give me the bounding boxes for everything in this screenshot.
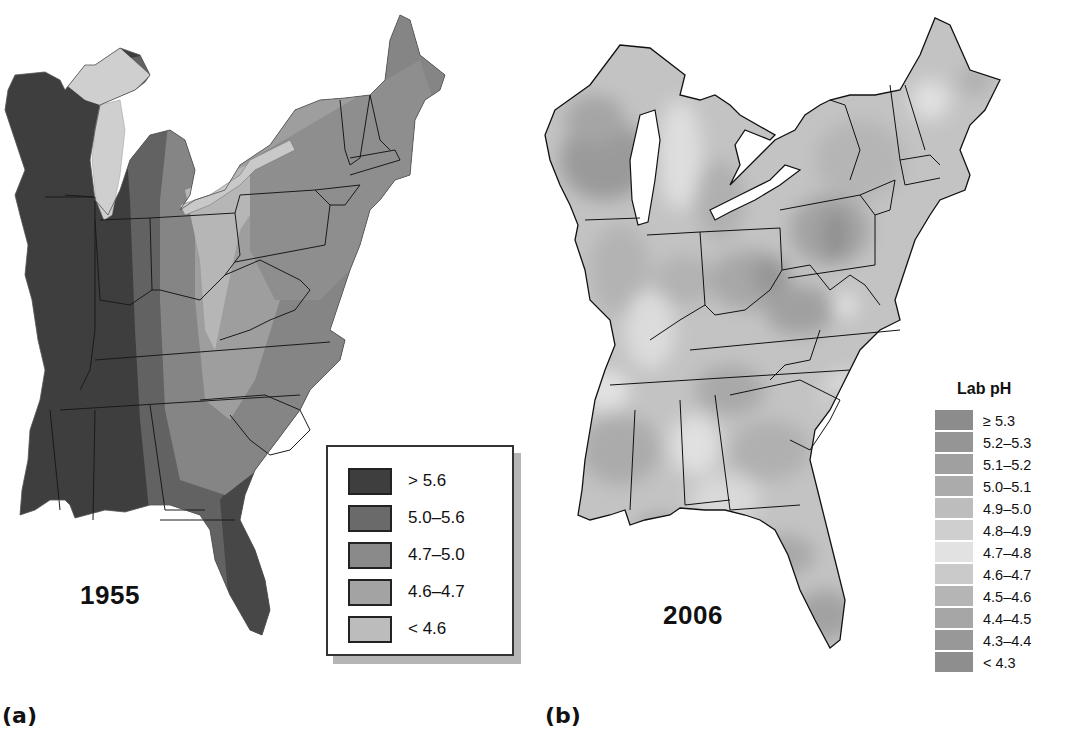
panel-letter-b: (b) (545, 703, 581, 728)
legend-item: 4.6–4.7 (935, 564, 1075, 586)
legend-item: < 4.3 (935, 652, 1075, 674)
legend-label: 4.7–4.8 (983, 545, 1031, 561)
legend-item: 5.0–5.1 (935, 476, 1075, 498)
legend-item: 4.4–4.5 (935, 608, 1075, 630)
legend-swatch (935, 498, 973, 520)
legend-2006: Lab pH ≥ 5.3 5.2–5.3 5.1–5.2 5.0–5.1 4.9… (935, 380, 1075, 674)
legend-label: 4.7–5.0 (408, 545, 465, 565)
legend-label: 4.6–4.7 (983, 567, 1031, 583)
legend-label: 5.0–5.1 (983, 479, 1031, 495)
legend-item: 4.8–4.9 (935, 520, 1075, 542)
legend-swatch (935, 542, 973, 564)
legend-label: 5.0–5.6 (408, 508, 465, 528)
legend-item: 5.2–5.3 (935, 432, 1075, 454)
legend-swatch (348, 579, 392, 606)
legend-item: 4.5–4.6 (935, 586, 1075, 608)
panel-1955: > 5.6 5.0–5.6 4.7–5.0 4.6–4.7 < 4.6 1955… (0, 0, 540, 733)
legend-swatch (348, 542, 392, 569)
legend-1955: > 5.6 5.0–5.6 4.7–5.0 4.6–4.7 < 4.6 (326, 445, 514, 656)
year-label-1955: 1955 (80, 580, 140, 611)
legend-item: > 5.6 (348, 467, 446, 495)
legend-label: > 5.6 (408, 471, 446, 491)
legend-swatch (935, 476, 973, 498)
legend-swatch (348, 468, 392, 495)
legend-swatch (935, 432, 973, 454)
legend-item: 5.1–5.2 (935, 454, 1075, 476)
legend-label: 5.2–5.3 (983, 435, 1031, 451)
legend-item: 5.0–5.6 (348, 504, 465, 532)
legend-label: ≥ 5.3 (983, 413, 1015, 429)
legend-item: < 4.6 (348, 615, 446, 643)
legend-swatch (935, 608, 973, 630)
legend-swatch (935, 520, 973, 542)
legend-title: Lab pH (957, 380, 1075, 398)
legend-swatch (935, 454, 973, 476)
legend-label: 4.9–5.0 (983, 501, 1031, 517)
legend-swatch (348, 616, 392, 643)
legend-swatch (935, 564, 973, 586)
legend-swatch (935, 652, 973, 674)
legend-swatch (935, 630, 973, 652)
legend-item: 4.7–5.0 (348, 541, 465, 569)
panel-letter-a: (a) (2, 703, 37, 728)
legend-label: 4.3–4.4 (983, 633, 1031, 649)
legend-label: < 4.6 (408, 619, 446, 639)
legend-label: 4.5–4.6 (983, 589, 1031, 605)
legend-item: ≥ 5.3 (935, 410, 1075, 432)
legend-swatch (935, 410, 973, 432)
legend-item: 4.3–4.4 (935, 630, 1075, 652)
legend-label: 5.1–5.2 (983, 457, 1031, 473)
legend-swatch (935, 586, 973, 608)
legend-swatch (348, 505, 392, 532)
legend-item: 4.6–4.7 (348, 578, 465, 606)
legend-label: 4.6–4.7 (408, 582, 465, 602)
year-label-2006: 2006 (663, 600, 723, 631)
legend-label: 4.8–4.9 (983, 523, 1031, 539)
legend-label: < 4.3 (983, 655, 1016, 671)
legend-label: 4.4–4.5 (983, 611, 1031, 627)
legend-item: 4.7–4.8 (935, 542, 1075, 564)
legend-item: 4.9–5.0 (935, 498, 1075, 520)
